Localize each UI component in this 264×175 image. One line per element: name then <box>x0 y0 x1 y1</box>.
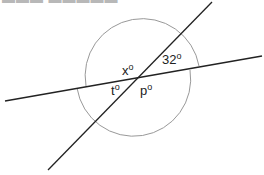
angle-diagram: xo 32o to po <box>0 0 264 175</box>
label-t: to <box>111 82 120 98</box>
diagonal-line <box>48 2 212 170</box>
lower-arc <box>77 70 191 136</box>
upper-arc <box>85 19 199 86</box>
label-32: 32o <box>162 51 181 67</box>
label-p: po <box>140 82 152 98</box>
label-x: xo <box>122 62 134 78</box>
